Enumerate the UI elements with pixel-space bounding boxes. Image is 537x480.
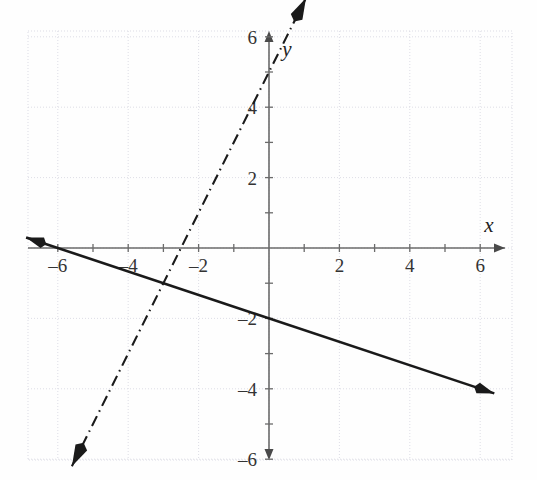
solid-line-arrow-end — [474, 383, 494, 394]
solid-line — [26, 237, 494, 393]
grid-lines — [28, 31, 512, 460]
y-tick-label: 4 — [248, 97, 258, 118]
y-tick-label: –4 — [237, 379, 258, 400]
plotted-lines — [26, 0, 494, 466]
coordinate-plane-svg: –6–4–2246642–2–4–6 x y — [0, 0, 537, 480]
y-axis-arrow-down — [265, 449, 274, 460]
x-tick-label: 4 — [405, 255, 415, 276]
graph-canvas: –6–4–2246642–2–4–6 x y — [0, 0, 537, 480]
dash-dot-line-arrow-start — [72, 443, 87, 466]
y-tick-label: 2 — [248, 168, 258, 189]
x-axis-label: x — [483, 213, 494, 237]
y-tick-label: 6 — [248, 27, 258, 48]
x-axis-arrow-right — [494, 244, 505, 253]
axes — [28, 31, 505, 460]
solid-line-arrow-start — [26, 237, 46, 248]
y-tick-label: –6 — [237, 449, 257, 470]
x-tick-label: –2 — [188, 255, 208, 276]
dash-dot-line — [72, 0, 306, 466]
dash-dot-line-arrow-end — [291, 0, 306, 22]
x-tick-label: 2 — [335, 255, 345, 276]
x-tick-label: 6 — [475, 255, 485, 276]
y-axis-label: y — [280, 37, 292, 61]
x-tick-label: –6 — [47, 255, 67, 276]
